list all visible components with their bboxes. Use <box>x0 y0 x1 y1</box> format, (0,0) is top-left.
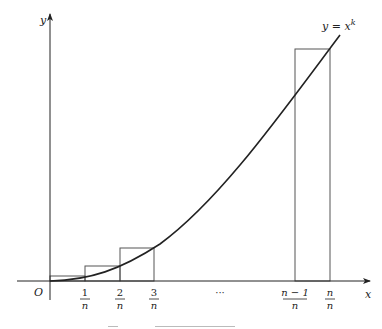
y-axis-label: y <box>39 14 47 27</box>
curve-label-exponent: k <box>351 18 356 27</box>
tick-label-3: 3 n <box>149 287 159 311</box>
svg-text:n − 1: n − 1 <box>281 287 309 298</box>
svg-text:n: n <box>327 287 333 298</box>
tick-label-n-minus-1: n − 1 n <box>281 287 309 311</box>
x-axis-label: x <box>365 288 372 301</box>
svg-text:2: 2 <box>117 287 123 298</box>
ellipsis: ··· <box>215 287 225 298</box>
svg-text:3: 3 <box>151 287 157 298</box>
curve-label-base: y = x <box>321 20 351 33</box>
svg-text:n: n <box>82 300 88 311</box>
origin-label: O <box>34 286 43 299</box>
upper-sum-rectangles <box>50 49 330 281</box>
svg-text:n: n <box>327 300 333 311</box>
riemann-sum-diagram: y x O y = xk 1 n 2 n 3 n ··· n − 1 n n n <box>0 0 382 329</box>
caption-remnant <box>108 326 235 327</box>
svg-text:1: 1 <box>82 287 88 298</box>
rectangle-n <box>295 49 330 281</box>
curve-y-equals-x-k <box>50 35 340 281</box>
tick-label-n: n n <box>325 287 335 311</box>
tick-label-1: 1 n <box>80 287 90 311</box>
svg-text:n: n <box>292 300 298 311</box>
curve-label: y = xk <box>321 18 356 33</box>
svg-text:n: n <box>117 300 123 311</box>
tick-label-2: 2 n <box>115 287 125 311</box>
svg-text:n: n <box>151 300 157 311</box>
